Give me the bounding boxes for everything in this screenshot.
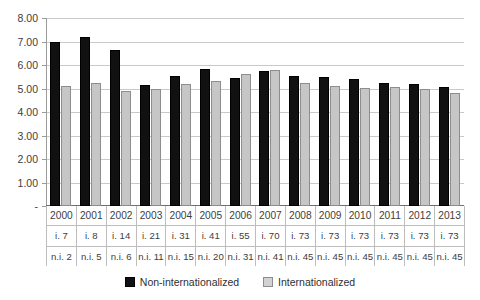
legend-swatch-black-icon	[125, 277, 135, 287]
bar	[259, 71, 269, 206]
y-axis-tick	[42, 89, 46, 90]
x-axis-non-internationalized-count-label: n.i. 15	[166, 246, 195, 266]
y-axis-tick-label: 6.00	[18, 60, 38, 70]
y-axis-tick	[42, 18, 46, 19]
x-axis-internationalized-count-label: i. 73	[316, 225, 345, 245]
x-axis-column: 2003i. 21n.i. 11	[137, 206, 167, 266]
legend-item: Internationalized	[263, 276, 355, 288]
legend-label: Internationalized	[278, 276, 355, 288]
x-axis-internationalized-count-label: i. 73	[435, 225, 464, 245]
x-axis-year-label: 2005	[196, 206, 225, 225]
x-axis-year-label: 2012	[405, 206, 434, 225]
y-axis-tick-label: 2.00	[18, 154, 38, 164]
y-axis-tick-label: 4.00	[18, 107, 38, 117]
bar	[230, 78, 240, 206]
y-axis-tick-label: 3.00	[18, 131, 38, 141]
x-axis-internationalized-count-label: i. 7	[47, 225, 76, 245]
x-axis-non-internationalized-count-label: n.i. 45	[405, 246, 434, 266]
y-axis-tick-label: 7.00	[18, 37, 38, 47]
bar	[349, 79, 359, 206]
x-axis-column: 2007i. 70n.i. 41	[256, 206, 286, 266]
bar-group	[195, 18, 225, 206]
x-axis-non-internationalized-count-label: n.i. 31	[226, 246, 255, 266]
bar-group	[285, 18, 315, 206]
x-axis-column: 2011i. 73n.i. 45	[375, 206, 405, 266]
bar	[450, 93, 460, 206]
x-axis-column: 2001i. 8n.i. 5	[77, 206, 107, 266]
x-axis-non-internationalized-count-label: n.i. 45	[286, 246, 315, 266]
x-axis-column: 2013i. 73n.i. 45	[435, 206, 465, 266]
x-axis-internationalized-count-label: i. 8	[77, 225, 106, 245]
x-axis-column: 2009i. 73n.i. 45	[316, 206, 346, 266]
bar	[211, 81, 221, 206]
bar	[181, 84, 191, 206]
x-axis-year-label: 2011	[375, 206, 404, 225]
bar	[319, 77, 329, 206]
bar	[300, 83, 310, 206]
bar-group	[76, 18, 106, 206]
y-axis-tick	[42, 183, 46, 184]
bar-group	[136, 18, 166, 206]
bar-group	[345, 18, 375, 206]
bar	[80, 37, 90, 206]
x-axis-internationalized-count-label: i. 73	[346, 225, 375, 245]
x-axis-non-internationalized-count-label: n.i. 45	[346, 246, 375, 266]
y-axis-tick-label: 8.00	[18, 13, 38, 23]
x-axis-column: 2005i. 41n.i. 20	[196, 206, 226, 266]
x-axis-internationalized-count-label: i. 14	[107, 225, 136, 245]
legend-swatch-gray-icon	[263, 277, 273, 287]
bar-group	[374, 18, 404, 206]
y-axis-tick-label: -	[35, 201, 39, 211]
bar-group	[225, 18, 255, 206]
bar-group	[46, 18, 76, 206]
bar	[330, 86, 340, 206]
x-axis-year-label: 2013	[435, 206, 464, 225]
x-axis-non-internationalized-count-label: n.i. 5	[77, 246, 106, 266]
bar	[270, 70, 280, 206]
chart-legend: Non-internationalizedInternationalized	[0, 272, 480, 292]
x-axis-year-label: 2010	[346, 206, 375, 225]
bar	[61, 86, 71, 206]
y-axis-tick	[42, 159, 46, 160]
bar	[140, 85, 150, 206]
x-axis-column: 2000i. 7n.i. 2	[47, 206, 77, 266]
y-axis-tick	[42, 136, 46, 137]
x-axis-non-internationalized-count-label: n.i. 20	[196, 246, 225, 266]
bar	[439, 87, 449, 206]
bar-group	[255, 18, 285, 206]
x-axis-year-label: 2004	[166, 206, 195, 225]
x-axis-internationalized-count-label: i. 41	[196, 225, 225, 245]
x-axis-non-internationalized-count-label: n.i. 45	[316, 246, 345, 266]
bar-group	[434, 18, 464, 206]
x-axis-year-label: 2001	[77, 206, 106, 225]
bar	[409, 84, 419, 206]
y-axis-tick	[42, 42, 46, 43]
bar-group	[404, 18, 434, 206]
x-axis-year-label: 2000	[47, 206, 76, 225]
bar	[200, 69, 210, 206]
x-axis-internationalized-count-label: i. 73	[405, 225, 434, 245]
bar-group	[165, 18, 195, 206]
y-axis-labels: -1.002.003.004.005.006.007.008.00	[0, 18, 44, 206]
bar-groups	[46, 18, 464, 206]
x-axis-column: 2012i. 73n.i. 45	[405, 206, 435, 266]
x-axis-year-label: 2008	[286, 206, 315, 225]
bar	[121, 91, 131, 206]
bar	[241, 74, 251, 206]
x-axis-internationalized-count-label: i. 73	[286, 225, 315, 245]
x-axis-non-internationalized-count-label: n.i. 45	[375, 246, 404, 266]
x-axis-year-label: 2009	[316, 206, 345, 225]
bar	[289, 76, 299, 206]
x-axis-non-internationalized-count-label: n.i. 11	[137, 246, 166, 266]
bar	[420, 89, 430, 206]
bar	[50, 42, 60, 207]
x-axis-column: 2002i. 14n.i. 6	[107, 206, 137, 266]
bar	[360, 88, 370, 206]
legend-label: Non-internationalized	[140, 276, 239, 288]
x-axis-column: 2006i. 55n.i. 31	[226, 206, 256, 266]
x-axis-column: 2010i. 73n.i. 45	[346, 206, 376, 266]
bar	[110, 50, 120, 206]
x-axis-column: 2008i. 73n.i. 45	[286, 206, 316, 266]
x-axis-non-internationalized-count-label: n.i. 45	[435, 246, 464, 266]
bar-group	[106, 18, 136, 206]
